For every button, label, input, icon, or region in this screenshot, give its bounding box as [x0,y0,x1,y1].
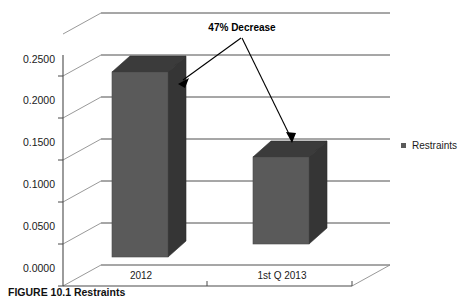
bar-1st-q-2013[interactable] [253,141,327,244]
figure-caption: FIGURE 10.1 Restraints [8,286,125,296]
annotation-arrows-group [178,38,296,143]
chart-figure: 0.2500 0.2000 0.1500 0.1000 0.0500 0.000… [0,0,471,296]
bar-1st-q-2013-front-face [253,157,309,244]
bar-chart-canvas: 0.2500 0.2000 0.1500 0.1000 0.0500 0.000… [0,0,471,296]
bar-1st-q-2013-side-face [309,141,327,244]
depth-line-0.1000 [63,181,101,202]
bar-2012[interactable] [112,56,186,257]
floor-right-depth-edge [352,265,390,286]
annotation-arrow-right-shaft [242,38,290,136]
x-tick-label-1st-q-2013: 1st Q 2013 [258,270,307,281]
depth-lines-group [63,13,101,286]
x-tick-labels-group: 2012 1st Q 2013 [130,270,307,281]
legend-label-restraints: Restraints [412,140,457,151]
y-tick-label-0.2000: 0.2000 [23,94,55,106]
x-tick-label-2012: 2012 [130,270,153,281]
depth-line-0.2500 [63,55,101,76]
bar-2012-front-face [112,72,168,257]
annotation-arrow-left-shaft [183,38,241,80]
y-tick-label-0.2500: 0.2500 [23,53,55,65]
depth-line-0.1500 [63,139,101,160]
legend: Restraints [401,140,457,151]
depth-line-0.3000 [63,13,101,34]
depth-line-0.0500 [63,223,101,244]
depth-line-0.2000 [63,97,101,118]
annotation-label-decrease: 47% Decrease [208,22,276,33]
depth-line-0.0000 [63,265,101,286]
x-axis-ticks-group [207,281,352,286]
y-tick-label-0.0000: 0.0000 [23,262,55,274]
y-tick-label-0.1000: 0.1000 [23,178,55,190]
y-axis-group [58,55,63,286]
y-tick-labels-group: 0.2500 0.2000 0.1500 0.1000 0.0500 0.000… [23,53,55,274]
legend-swatch-restraints [401,143,406,148]
y-tick-label-0.1500: 0.1500 [23,136,55,148]
y-tick-label-0.0500: 0.0500 [23,220,55,232]
floor-edges-group [63,265,390,286]
